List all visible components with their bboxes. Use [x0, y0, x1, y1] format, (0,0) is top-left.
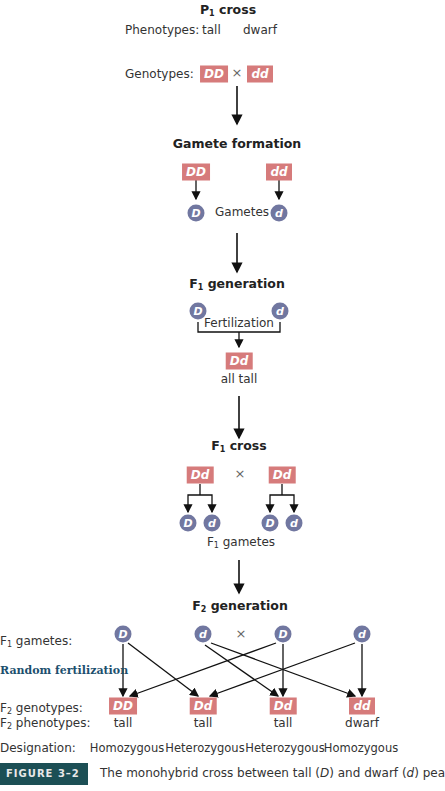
f1-phenotype: all tall: [221, 372, 258, 386]
genotype-box-DD: DD: [200, 66, 228, 83]
gamete-circle-d: d: [195, 626, 212, 643]
gamete-circle-d: d: [204, 515, 221, 532]
cross-symbol: ×: [235, 466, 246, 481]
p1-phenotype-tall: tall: [202, 23, 221, 37]
p1-cross-title: P1 cross: [200, 2, 256, 18]
gamete-circle-d: d: [271, 205, 288, 222]
genotype-box-Dd: Dd: [269, 467, 296, 484]
cross-symbol: ×: [236, 626, 247, 641]
f2-f1-gametes-label: F1 gametes:: [0, 634, 72, 649]
p1-phenotype-dwarf: dwarf: [243, 23, 277, 37]
gamete-formation-title: Gamete formation: [173, 136, 301, 151]
designation: Heterozygous: [245, 741, 324, 755]
designation: Heterozygous: [165, 741, 244, 755]
designation-label: Designation:: [0, 741, 76, 755]
f2-phenotype: dwarf: [345, 716, 379, 730]
genotype-box-dd: dd: [247, 66, 273, 83]
p1-genotypes-label: Genotypes:: [125, 67, 194, 81]
genotype-box-DD: DD: [182, 164, 210, 181]
cross-symbol: ×: [232, 65, 243, 80]
gametes-label: Gametes: [215, 205, 269, 219]
f1-gametes-label: F1 gametes: [207, 535, 275, 550]
f2-phenotype: tall: [194, 716, 213, 730]
f1-cross-title: F1 cross: [211, 438, 267, 454]
figure-tag: FIGURE 3–2: [0, 763, 88, 785]
f2-generation-title: F2 generation: [192, 598, 288, 614]
figure-caption: The monohybrid cross between tall (D) an…: [100, 766, 445, 780]
genotype-box-dd: dd: [266, 164, 292, 181]
gamete-circle-D: D: [115, 626, 132, 643]
gamete-circle-d: d: [354, 626, 371, 643]
gamete-circle-D: D: [188, 205, 205, 222]
f2-genotype-box: DD: [109, 698, 137, 715]
p1-phenotypes-label: Phenotypes:: [125, 23, 199, 37]
gamete-circle-d: d: [286, 515, 303, 532]
designation: Homozygous: [90, 741, 164, 755]
f2-phenotypes-label: F2 phenotypes:: [0, 716, 90, 731]
fertilization-label: Fertilization: [204, 316, 274, 330]
gamete-circle-D: D: [262, 515, 279, 532]
random-fertilization-label: Random fertilization: [0, 664, 128, 677]
genotype-box-Dd: Dd: [226, 353, 253, 370]
f2-genotype-box: dd: [349, 698, 375, 715]
f2-genotype-box: Dd: [270, 698, 297, 715]
gamete-circle-D: D: [180, 515, 197, 532]
f2-genotypes-label: F2 genotypes:: [0, 701, 83, 716]
gamete-circle-D: D: [275, 626, 292, 643]
gamete-circle-d: d: [272, 303, 289, 320]
genotype-box-Dd: Dd: [187, 467, 214, 484]
f2-phenotype: tall: [274, 716, 293, 730]
f2-genotype-box: Dd: [190, 698, 217, 715]
f1-generation-title: F1 generation: [189, 276, 285, 292]
designation: Homozygous: [324, 741, 398, 755]
f2-phenotype: tall: [114, 716, 133, 730]
